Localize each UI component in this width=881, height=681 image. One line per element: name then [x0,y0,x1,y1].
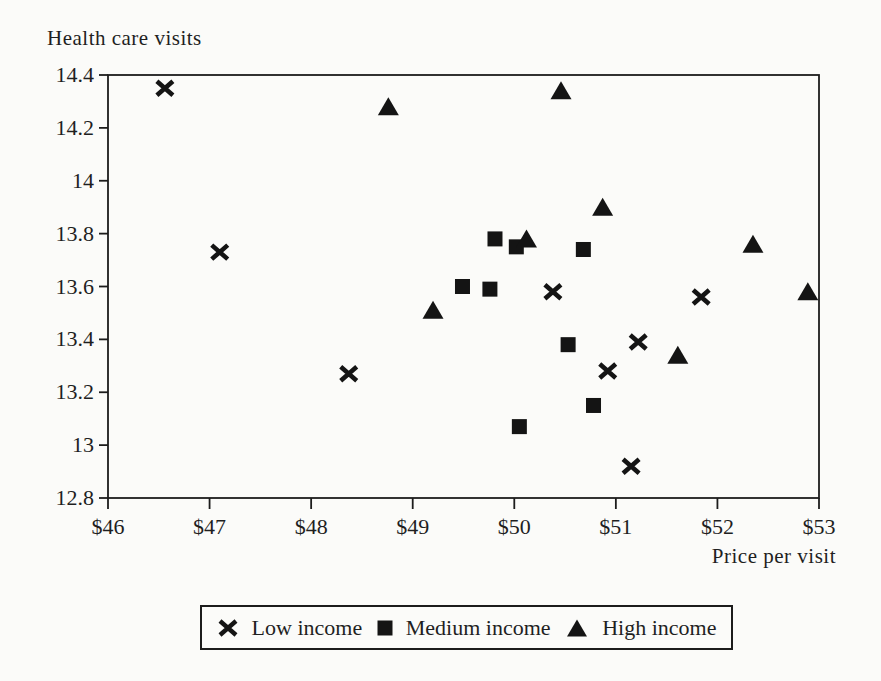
marker-medium-income [455,279,470,294]
marker-low-income [693,290,709,304]
marker-high-income [423,301,444,319]
marker-high-income [592,198,613,216]
x-tick-label: $50 [498,514,531,539]
marker-low-income [630,335,646,349]
x-axis-title: Price per visit [712,544,836,569]
legend-label-medium-income: Medium income [406,615,551,641]
marker-high-income [378,97,399,115]
x-marker-icon [217,618,239,638]
y-tick-label: 13.8 [56,221,95,246]
legend-item-medium-income: Medium income [377,615,551,641]
x-tick-label: $47 [193,514,226,539]
marker-low-income [600,364,616,378]
y-tick-label: 13.4 [56,326,95,351]
marker-high-income [551,81,572,99]
marker-low-income [341,367,357,381]
y-tick-label: 12.8 [56,485,95,510]
scatter-chart-page: Health care visits $46$47$48$49$50$51$52… [0,0,881,681]
x-tick-label: $52 [701,514,734,539]
y-tick-label: 14 [72,168,94,193]
marker-medium-income [576,242,591,257]
x-tick-label: $51 [599,514,632,539]
marker-high-income [516,229,537,247]
x-tick-label: $46 [92,514,125,539]
x-tick-label: $53 [803,514,836,539]
marker-low-income [157,81,173,95]
marker-medium-income [586,398,601,413]
legend-label-low-income: Low income [252,615,363,641]
marker-low-income [623,459,639,473]
y-tick-label: 14.4 [56,62,95,87]
marker-high-income [667,346,688,364]
y-tick-label: 13.6 [56,274,95,299]
x-tick-label: $49 [396,514,429,539]
marker-low-income [545,285,561,299]
square-marker-icon [377,620,393,636]
y-tick-label: 13.2 [56,379,95,404]
triangle-marker-icon [565,618,589,638]
legend-item-low-income: Low income [217,615,363,641]
marker-medium-income [482,282,497,297]
legend-label-high-income: High income [602,615,716,641]
marker-medium-income [561,337,576,352]
scatter-plot-canvas: $46$47$48$49$50$51$52$5312.81313.213.413… [0,0,881,580]
marker-high-income [742,235,763,253]
marker-high-income [797,282,818,300]
marker-low-income [212,245,228,259]
x-tick-label: $48 [295,514,328,539]
y-tick-label: 14.2 [56,115,95,140]
marker-medium-income [512,419,527,434]
legend-box: Low income Medium income High income [200,605,733,650]
marker-medium-income [487,231,502,246]
y-tick-label: 13 [72,432,94,457]
legend-item-high-income: High income [565,615,716,641]
